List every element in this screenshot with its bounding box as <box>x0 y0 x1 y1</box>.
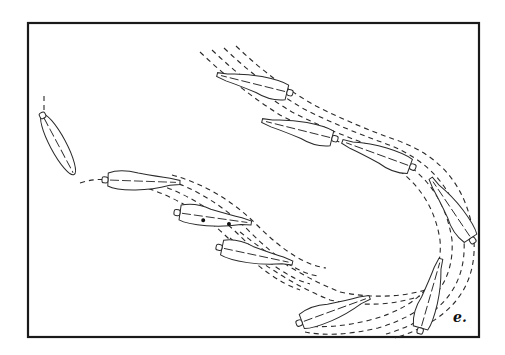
swimmer-figure-6 <box>260 112 340 150</box>
swimmer-figure-1 <box>34 109 81 178</box>
swimmer-figure-5 <box>215 66 295 104</box>
swimmer-figure-7 <box>339 133 419 178</box>
swimmer-figure-4 <box>214 236 294 272</box>
swimmer-figure-9 <box>409 256 449 336</box>
swimmer-figure-3 <box>173 202 253 232</box>
panel-label: e. <box>453 309 467 325</box>
figure-frame <box>28 23 479 337</box>
diagram-canvas <box>0 0 505 355</box>
